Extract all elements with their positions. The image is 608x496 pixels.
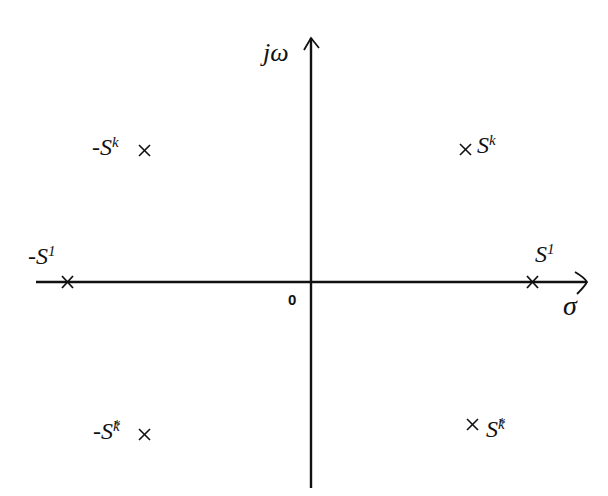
label-s1: S1	[535, 242, 547, 266]
s-plane-diagram	[0, 0, 608, 496]
imaginary-axis-label: jω	[263, 40, 289, 66]
origin-label: 0	[288, 291, 296, 308]
pole-marker-neg-sk-conj	[139, 429, 150, 440]
pole-marker-neg-sk	[139, 145, 150, 156]
real-axis-label: σ	[563, 292, 577, 320]
label-neg-sk: -Sk	[92, 135, 112, 159]
pole-marker-sk-conj	[467, 419, 478, 430]
label-neg-s1: -S1	[28, 244, 48, 268]
label-neg-sk-conj: -S*k	[93, 419, 113, 443]
label-sk: Sk	[477, 133, 489, 157]
pole-marker-sk	[460, 144, 471, 155]
label-sk-conj: S*k	[486, 417, 498, 441]
